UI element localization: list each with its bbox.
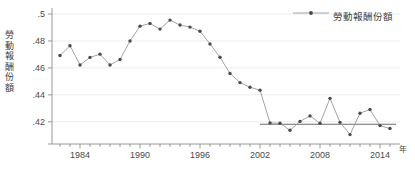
data-point — [78, 63, 81, 66]
data-point — [208, 42, 211, 45]
data-point — [148, 22, 151, 25]
x-axis: 198419901996200220082014 — [48, 144, 400, 160]
data-point — [188, 25, 191, 28]
data-point — [128, 39, 131, 42]
data-point — [228, 72, 231, 75]
data-point — [238, 81, 241, 84]
data-point — [118, 58, 121, 61]
y-axis-tick-label: .46 — [32, 63, 45, 73]
x-axis-tick-label: 2014 — [370, 150, 390, 160]
data-point — [68, 44, 71, 47]
data-series-labor-share — [58, 18, 391, 136]
data-point — [248, 86, 251, 89]
data-point — [178, 23, 181, 26]
data-point — [348, 133, 351, 136]
y-axis-tick-label: .48 — [32, 36, 45, 46]
data-point — [308, 114, 311, 117]
data-point — [268, 121, 271, 124]
legend-marker-swatch — [309, 11, 313, 15]
data-point — [88, 56, 91, 59]
data-point — [378, 124, 381, 127]
data-point — [58, 54, 61, 57]
data-point — [98, 52, 101, 55]
y-axis-tick-label: .5 — [37, 9, 45, 19]
y-axis-tick-label: .44 — [32, 90, 45, 100]
x-axis-tick-label: 2008 — [310, 150, 330, 160]
x-axis-tick-label: 2002 — [250, 150, 270, 160]
data-point — [138, 24, 141, 27]
data-point — [258, 88, 261, 91]
x-axis-tick-label: 1990 — [130, 150, 150, 160]
data-point — [298, 120, 301, 123]
y-axis-tick-label: .42 — [32, 117, 45, 127]
data-point — [168, 18, 171, 21]
x-axis-unit-label: 年 — [399, 144, 407, 154]
grid-lines — [52, 14, 400, 122]
chart-canvas: .42.44.46.48.5 198419901996200220082014 … — [0, 0, 415, 179]
data-point — [318, 122, 321, 125]
y-axis: .42.44.46.48.5 — [32, 8, 52, 144]
data-point — [198, 30, 201, 33]
data-point — [278, 122, 281, 125]
data-point — [338, 121, 341, 124]
legend-label-labor-share: 勞動報酬份額 — [333, 9, 393, 23]
line-chart-figure: .42.44.46.48.5 198419901996200220082014 … — [0, 0, 415, 179]
data-point — [368, 108, 371, 111]
data-point — [388, 127, 391, 130]
data-point — [358, 111, 361, 114]
data-point — [218, 56, 221, 59]
x-axis-tick-label: 1996 — [190, 150, 210, 160]
x-axis-tick-label: 1984 — [70, 150, 90, 160]
data-point — [288, 129, 291, 132]
data-point — [158, 27, 161, 30]
data-point — [328, 97, 331, 100]
series-line — [60, 20, 390, 135]
data-point — [108, 63, 111, 66]
